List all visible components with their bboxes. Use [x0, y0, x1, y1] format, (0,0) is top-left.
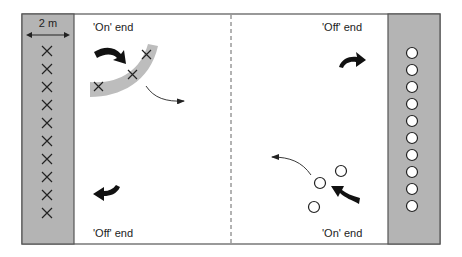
label-on-end-bottom-right: 'On' end	[322, 227, 362, 239]
label-off-end-top-right: 'Off' end	[322, 21, 362, 33]
label-off-end-bottom-left: 'Off' end	[93, 227, 133, 239]
left-substitution-strip	[22, 14, 74, 244]
scale-label: 2 m	[39, 17, 57, 29]
label-on-end-top-left: 'On' end	[93, 21, 133, 33]
pitch-diagram: 2 m 'On' end 'Off' end 'Off' end 'On' en…	[0, 0, 462, 257]
